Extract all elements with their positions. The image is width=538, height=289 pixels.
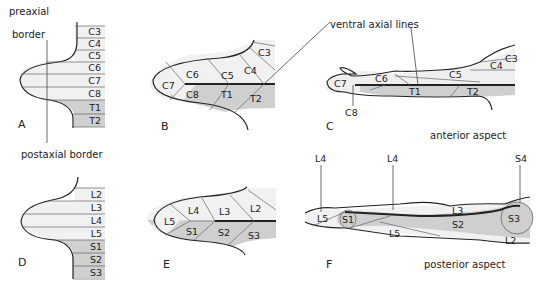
- panel-f: L4 L4 L5 S1 L3 S2 S3 S4 L5 L2 F posterio…: [305, 153, 533, 271]
- dermatome-diagram: C3 C4 C5 C6 C7 C8 T1 T2 A preaxial borde…: [0, 0, 538, 289]
- segment-c8: C8: [88, 88, 101, 99]
- preaxial-border-label-1: preaxial: [9, 6, 49, 17]
- segment-t1: T1: [220, 89, 233, 100]
- panel-label-c: C: [326, 120, 334, 133]
- segment-t2: T2: [249, 93, 262, 104]
- segment-c4: C4: [88, 38, 101, 49]
- segment-c4: C4: [490, 60, 503, 71]
- panel-label-f: F: [326, 258, 332, 271]
- panel-label-d: D: [18, 256, 26, 269]
- segment-s2: S2: [90, 254, 102, 265]
- panel-a: C3 C4 C5 C6 C7 C8 T1 T2 A: [18, 22, 105, 143]
- segment-l3: L3: [452, 205, 463, 216]
- segment-s4: S4: [515, 153, 527, 164]
- segment-c6: C6: [88, 62, 101, 73]
- segment-l4: L4: [91, 215, 102, 226]
- panel-label-b: B: [161, 120, 169, 133]
- segment-c7: C7: [334, 78, 347, 89]
- preaxial-border-label-2: border: [12, 29, 46, 40]
- segment-t1: T1: [88, 102, 101, 113]
- panel-label-e: E: [163, 258, 170, 271]
- segment-s3: S3: [508, 213, 520, 224]
- segment-t1: T1: [408, 86, 421, 97]
- ventral-axial-lines-label: ventral axial lines: [330, 19, 419, 30]
- segment-c5: C5: [221, 70, 234, 81]
- segment-t2: T2: [88, 115, 101, 126]
- postaxial-border-label: postaxial border: [21, 149, 103, 160]
- segment-s1: S1: [342, 214, 354, 225]
- panel-b: C3 C4 C5 C6 C7 C8 T1 T2 B: [150, 22, 330, 133]
- segment-s1: S1: [186, 226, 198, 237]
- segment-l2: L2: [505, 235, 516, 246]
- segment-c5: C5: [449, 69, 462, 80]
- segment-l2: L2: [250, 203, 261, 214]
- segment-c3: C3: [258, 47, 271, 58]
- segment-t2: T2: [466, 86, 479, 97]
- segment-l4: L4: [188, 205, 199, 216]
- segment-c6: C6: [186, 69, 199, 80]
- segment-l3: L3: [219, 206, 230, 217]
- segment-l5: L5: [164, 216, 175, 227]
- segment-c7: C7: [88, 75, 101, 86]
- segment-l4-hand: L4: [315, 153, 326, 164]
- segment-s2: S2: [452, 219, 464, 230]
- segment-c5: C5: [88, 50, 101, 61]
- segment-l3: L3: [91, 202, 102, 213]
- segment-s3: S3: [248, 230, 260, 241]
- segment-l5-hand: L5: [317, 213, 328, 224]
- segment-c4: C4: [244, 65, 257, 76]
- segment-c3: C3: [88, 26, 101, 37]
- segment-c8: C8: [345, 107, 358, 118]
- panel-c: C3 C4 C5 C6 C7 C8 T1 T2 C anterior aspec…: [326, 28, 518, 141]
- anterior-aspect-label: anterior aspect: [430, 130, 506, 141]
- segment-c3: C3: [505, 53, 518, 64]
- segment-c7: C7: [162, 80, 175, 91]
- segment-c8: C8: [186, 89, 199, 100]
- segment-l2: L2: [91, 189, 102, 200]
- panel-label-a: A: [18, 118, 26, 131]
- segment-s3: S3: [90, 267, 102, 278]
- segment-l5: L5: [389, 228, 400, 239]
- segment-l5: L5: [91, 228, 102, 239]
- panel-d: L2 L3 L4 L5 S1 S2 S3 D: [18, 177, 105, 279]
- segment-s2: S2: [218, 227, 230, 238]
- posterior-aspect-label: posterior aspect: [424, 259, 505, 270]
- segment-c6: C6: [375, 73, 388, 84]
- segment-s1: S1: [90, 241, 102, 252]
- segment-l4: L4: [387, 153, 398, 164]
- panel-e: L4 L3 L2 L5 S1 S2 S3 E: [147, 187, 276, 271]
